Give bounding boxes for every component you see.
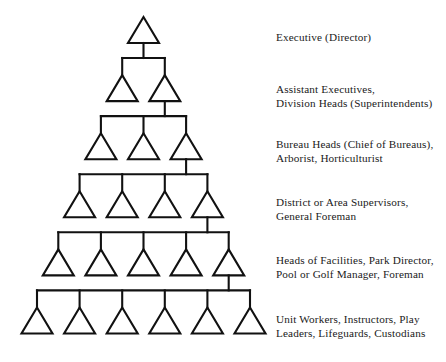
level-label-1-line-1: Executive (Director) [276, 31, 371, 45]
level-label-3: Bureau Heads (Chief of Bureaus),Arborist… [276, 138, 433, 165]
unit-triangle-r6-c6 [235, 308, 266, 334]
level-label-6-line-2: Leaders, Lifeguards, Custodians [276, 327, 425, 341]
unit-triangle-r3-c3 [171, 133, 202, 159]
unit-triangle-r2-c1 [107, 75, 138, 101]
level-label-6: Unit Workers, Instructors, PlayLeaders, … [276, 313, 425, 340]
unit-triangle-r4-c1 [64, 191, 95, 217]
level-label-2-line-1: Assistant Executives, [276, 83, 432, 97]
unit-triangle-r6-c5 [192, 308, 223, 334]
unit-triangle-r5-c5 [213, 249, 244, 275]
level-label-5: Heads of Facilities, Park Director,Pool … [276, 254, 434, 281]
unit-triangle-r2-c2 [149, 75, 180, 101]
unit-triangle-r6-c1 [22, 308, 53, 334]
unit-triangle-r6-c2 [64, 308, 95, 334]
unit-triangle-r3-c1 [85, 133, 116, 159]
level-label-2: Assistant Executives,Division Heads (Sup… [276, 83, 432, 110]
level-label-3-line-2: Arborist, Horticulturist [276, 152, 433, 166]
unit-triangle-r6-c3 [107, 308, 138, 334]
level-label-6-line-1: Unit Workers, Instructors, Play [276, 313, 425, 327]
level-label-3-line-1: Bureau Heads (Chief of Bureaus), [276, 138, 433, 152]
unit-triangle-r1-c1 [128, 17, 159, 43]
unit-triangle-r5-c4 [171, 249, 202, 275]
level-label-4-line-1: District or Area Supervisors, [276, 196, 408, 210]
level-label-2-line-2: Division Heads (Superintendents) [276, 97, 432, 111]
level-label-1: Executive (Director) [276, 31, 371, 45]
level-label-5-line-2: Pool or Golf Manager, Foreman [276, 268, 434, 282]
level-label-4: District or Area Supervisors,General For… [276, 196, 408, 223]
unit-triangle-r6-c4 [149, 308, 180, 334]
unit-triangle-r4-c2 [107, 191, 138, 217]
unit-triangle-r5-c3 [128, 249, 159, 275]
pyramid-graphic [0, 0, 446, 362]
unit-triangle-r5-c2 [85, 249, 116, 275]
unit-triangle-r4-c4 [192, 191, 223, 217]
unit-triangle-r3-c2 [128, 133, 159, 159]
org-pyramid-diagram: Executive (Director) Assistant Executive… [0, 0, 446, 362]
unit-triangle-r4-c3 [149, 191, 180, 217]
level-label-5-line-1: Heads of Facilities, Park Director, [276, 254, 434, 268]
level-label-4-line-2: General Foreman [276, 210, 408, 224]
unit-triangle-r5-c1 [43, 249, 74, 275]
